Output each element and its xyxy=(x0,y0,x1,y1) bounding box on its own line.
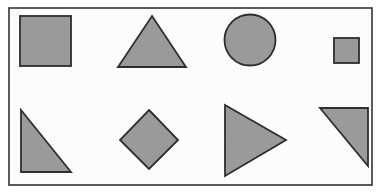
circle xyxy=(225,15,276,66)
shapes-diagram xyxy=(0,0,382,196)
square-small xyxy=(334,38,359,63)
square-large xyxy=(20,16,71,66)
diagram-svg xyxy=(0,0,382,196)
